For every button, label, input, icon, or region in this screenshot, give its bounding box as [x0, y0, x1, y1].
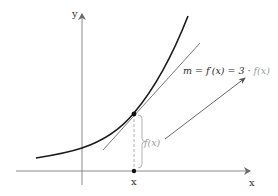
x-axis-point	[132, 169, 136, 173]
height-label: f(x)	[143, 137, 161, 148]
y-axis-label: y	[71, 8, 78, 19]
tangent-line	[103, 43, 200, 150]
formula-lhs: m = f′(x) = 3 ·	[183, 65, 254, 76]
annotation-arrow	[165, 78, 245, 139]
x-axis-label: x	[249, 177, 255, 188]
point-x-label: x	[131, 176, 137, 187]
slope-formula: m = f′(x) = 3 · f(x)	[183, 65, 270, 76]
formula-rhs: f(x)	[253, 65, 271, 76]
function-curve	[36, 16, 188, 158]
tangent-point	[132, 112, 137, 117]
diagram-canvas: x y x f(x) m = f′(x) = 3 · f(x)	[0, 0, 278, 196]
